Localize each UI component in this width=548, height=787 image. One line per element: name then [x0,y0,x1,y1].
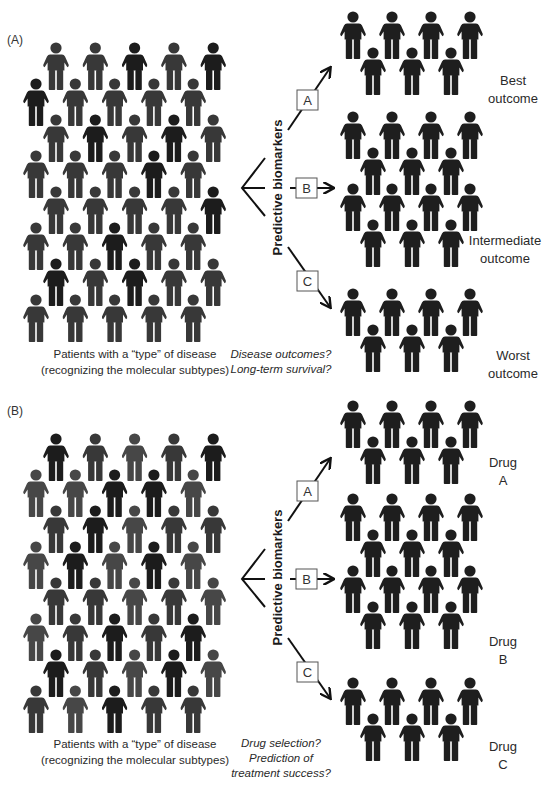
outcome-figure [418,183,444,231]
patient-figure [161,186,187,234]
panel-b-question: Drug selection? Prediction of treatment … [222,736,340,781]
patient-figure [180,613,206,661]
patient-figure [200,433,226,481]
outcome-figure [399,529,425,577]
biomarker-label: C [303,274,312,289]
outcome-figure [379,183,405,231]
patient-figure [141,150,167,198]
patient-figure [180,541,206,589]
outcome-figure [418,400,444,448]
outcome-figure [379,565,405,613]
outcome-figure [360,147,386,195]
question-line: treatment success? [222,766,340,781]
biomarker-label: A [303,93,312,108]
outcome-figure [438,147,464,195]
patient-figure [23,222,49,270]
figures-layer [23,11,483,761]
outcome-figure [418,288,444,336]
patient-figure [122,42,148,90]
patient-figure [200,186,226,234]
outcome-figure [418,111,444,159]
patient-figure [23,150,49,198]
outcome-figure [457,183,483,231]
patient-figure [200,505,226,553]
outcome-figure [360,713,386,761]
outcome-figure [340,565,366,613]
outcome-figure [457,111,483,159]
caption-line: (recognizing the molecular subtypes) [26,362,244,378]
patient-figure [83,42,109,90]
outcome-figure [457,565,483,613]
outcome-figure [418,11,444,59]
outcome-figure [379,400,405,448]
patient-figure [122,114,148,162]
patient-figure [180,222,206,270]
patient-figure [141,222,167,270]
outcome-figure [418,493,444,541]
patient-figure [141,541,167,589]
patient-figure [200,114,226,162]
outcome-figure [418,565,444,613]
outcome-figure [457,11,483,59]
panel-a-outcome-intermediate: Intermediate outcome [462,232,548,268]
patient-figure [122,186,148,234]
outcome-figure [399,713,425,761]
caption-line: (recognizing the molecular subtypes) [26,752,244,768]
patient-figure [180,685,206,733]
patient-figure [141,294,167,342]
patient-figure [83,258,109,306]
patient-figure [161,42,187,90]
outcome-figure [360,436,386,484]
patient-figure [161,505,187,553]
outcome-figure [438,47,464,95]
patient-figure [161,577,187,625]
patient-figure [141,469,167,517]
branch-connector [242,158,265,216]
patient-figure [63,613,89,661]
patient-figure [43,577,69,625]
patient-figure [63,469,89,517]
patient-figure [122,505,148,553]
patient-figure [102,222,128,270]
patient-figure [23,541,49,589]
patient-figure [180,150,206,198]
patient-figure [161,114,187,162]
outcome-figure [340,493,366,541]
outcome-figure [399,147,425,195]
patient-figure [102,685,128,733]
panel-a-label: (A) [7,33,23,47]
outcome-figure [438,219,464,267]
outcome-figure [457,400,483,448]
patient-figure [122,258,148,306]
outcome-figure [379,677,405,725]
patient-figure [141,613,167,661]
patient-figure [63,294,89,342]
panel-b-outcome-drug-c: Drug C [478,738,528,774]
patient-figure [63,222,89,270]
panel-a-branch-title: Predictive biomarkers [270,118,285,258]
patient-figure [180,469,206,517]
outcome-figure [438,436,464,484]
patient-figure [23,685,49,733]
patient-figure [43,42,69,90]
patient-figure [200,577,226,625]
patient-figure [102,469,128,517]
outcome-figure [379,11,405,59]
outcome-figure [438,601,464,649]
patient-figure [141,78,167,126]
outcome-figure [379,493,405,541]
question-line: Drug selection? [222,736,340,751]
patient-figure [102,150,128,198]
outcome-figure [399,219,425,267]
arrows-layer: ABCABC [242,68,333,698]
outcome-line: outcome [462,250,548,268]
outcome-figure [360,219,386,267]
patient-figure [43,649,69,697]
panel-b-outcome-drug-b: Drug B [478,633,528,669]
panel-b-outcome-drug-a: Drug A [478,454,528,490]
biomarker-label: C [303,665,312,680]
patient-figure [161,258,187,306]
question-line: Prediction of [222,751,340,766]
patient-figure [43,186,69,234]
outcome-line: outcome [478,90,548,108]
